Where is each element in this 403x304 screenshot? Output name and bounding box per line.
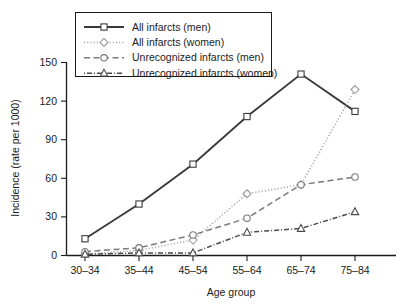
data-point-marker-diamond xyxy=(351,86,359,94)
y-tick-label: 90 xyxy=(45,133,57,145)
data-point-marker-triangle xyxy=(243,228,250,235)
incidence-line-chart: 0 30 60 90 120 150 30–34 35–44 45–54 55–… xyxy=(0,0,403,304)
series-line xyxy=(85,90,355,255)
legend-label: All infarcts (men) xyxy=(132,21,211,33)
data-point-marker-circle xyxy=(352,174,358,180)
y-axis-title: Incidence (rate per 1000) xyxy=(9,99,21,216)
y-tick-label: 0 xyxy=(51,249,57,261)
x-tick-label: 55–64 xyxy=(232,264,261,276)
x-tick-label: 75–84 xyxy=(340,264,369,276)
series-line xyxy=(85,177,355,252)
y-tick-label: 60 xyxy=(45,172,57,184)
data-point-marker-circle xyxy=(101,55,107,61)
y-tick-label: 30 xyxy=(45,210,57,222)
y-tick-label: 150 xyxy=(39,56,57,68)
legend-label: All infarcts (women) xyxy=(132,36,224,48)
y-tick-label: 120 xyxy=(39,95,57,107)
legend-label: Unrecognized infarcts (men) xyxy=(132,51,264,63)
series-0 xyxy=(82,71,358,242)
y-axis-tick-labels: 0 30 60 90 120 150 xyxy=(39,56,57,261)
data-point-marker-square xyxy=(136,201,142,207)
x-tick-label: 45–54 xyxy=(178,264,207,276)
series-1 xyxy=(81,86,359,259)
legend-label: Unrecognized infarcts (women) xyxy=(132,67,277,79)
data-point-marker-square xyxy=(244,113,250,119)
data-point-marker-square xyxy=(190,161,196,167)
data-point-marker-circle xyxy=(190,232,196,238)
data-point-marker-square xyxy=(352,108,358,114)
data-point-marker-square xyxy=(82,236,88,242)
x-axis-tick-labels: 30–34 35–44 45–54 55–64 65–74 75–84 xyxy=(70,264,369,276)
series-line xyxy=(85,74,355,239)
figure-container: 0 30 60 90 120 150 30–34 35–44 45–54 55–… xyxy=(0,0,403,304)
x-tick-label: 30–34 xyxy=(70,264,99,276)
y-axis-ticks xyxy=(61,63,67,256)
data-point-marker-circle xyxy=(244,215,250,221)
series-line xyxy=(85,212,355,254)
data-point-marker-triangle xyxy=(351,208,358,215)
data-point-marker-square xyxy=(298,71,304,77)
x-tick-label: 65–74 xyxy=(286,264,315,276)
x-tick-label: 35–44 xyxy=(124,264,153,276)
data-point-marker-square xyxy=(101,24,107,30)
x-axis-title: Age group xyxy=(207,286,256,298)
x-axis-ticks xyxy=(85,256,355,262)
data-point-marker-circle xyxy=(298,182,304,188)
data-series-layer xyxy=(81,71,359,258)
